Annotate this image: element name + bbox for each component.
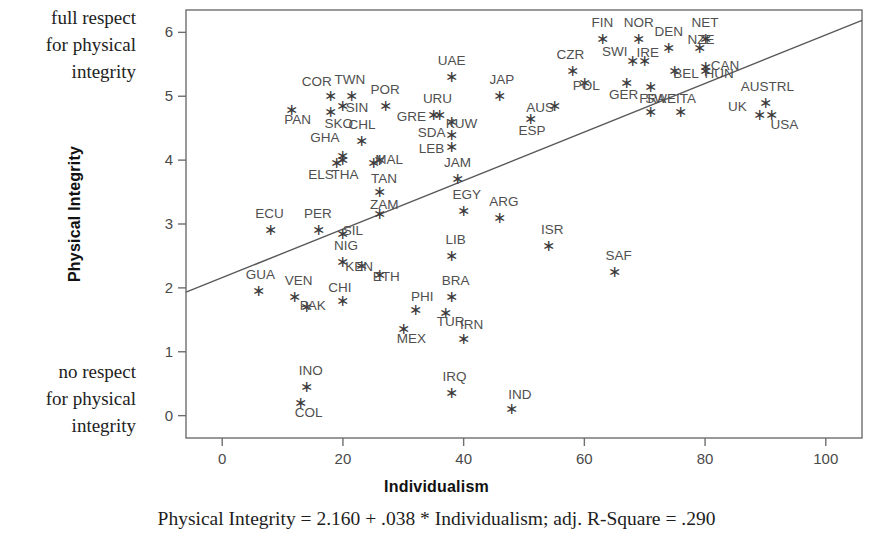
svg-text:40: 40 bbox=[455, 450, 472, 467]
data-point-label: TWN bbox=[335, 72, 366, 87]
data-point: ∗NOR bbox=[624, 15, 654, 47]
data-point: ∗POR bbox=[371, 82, 401, 114]
data-points: ∗COR∗TWN∗SIN∗PAN∗SKO∗POR∗GHA∗CHL∗GRE∗URU… bbox=[246, 15, 799, 420]
data-point-label: BEL bbox=[673, 66, 699, 81]
data-point-label: DEN bbox=[655, 24, 684, 39]
data-point-label: ECU bbox=[255, 206, 284, 221]
data-point-label: NIG bbox=[334, 238, 358, 253]
data-point-label: CHL bbox=[349, 117, 376, 132]
data-point: ∗ISR bbox=[541, 222, 564, 254]
data-point: ∗PAK bbox=[300, 298, 326, 315]
data-point: ∗GER bbox=[609, 74, 639, 102]
data-point-label: CHI bbox=[328, 280, 351, 295]
x-axis-title: Individualism bbox=[0, 478, 873, 496]
annotation-no-respect: no respectfor physicalintegrity bbox=[4, 358, 136, 439]
data-point-label: ETH bbox=[373, 269, 400, 284]
data-point-marker: ∗ bbox=[445, 68, 458, 85]
data-point-marker: ∗ bbox=[373, 205, 386, 222]
data-point-marker: ∗ bbox=[457, 330, 470, 347]
data-point-label: LEB bbox=[419, 141, 445, 156]
data-point-label: SWI bbox=[602, 44, 628, 59]
data-point-marker: ∗ bbox=[355, 132, 368, 149]
data-point-label: GUA bbox=[246, 267, 275, 282]
data-point-marker: ∗ bbox=[566, 62, 579, 79]
data-point-label: FIN bbox=[592, 15, 614, 30]
data-point: ∗IRE bbox=[636, 45, 659, 69]
data-point: ∗FIN bbox=[592, 15, 614, 47]
data-point-label: ESP bbox=[519, 123, 546, 138]
data-point: ∗USA bbox=[765, 106, 798, 132]
svg-text:80: 80 bbox=[697, 450, 714, 467]
data-point-label: PAK bbox=[300, 298, 326, 313]
data-point: ∗ARG bbox=[489, 194, 518, 226]
data-point-label: EGY bbox=[452, 187, 481, 202]
data-point-marker: ∗ bbox=[699, 58, 712, 75]
data-point: ∗SIN bbox=[336, 97, 368, 115]
data-point: ∗BRA bbox=[442, 273, 470, 305]
data-point: ∗FRA bbox=[639, 91, 666, 120]
data-point-label: IRQ bbox=[443, 369, 467, 384]
data-point-marker: ∗ bbox=[699, 30, 712, 47]
regression-caption: Physical Integrity = 2.160 + .038 * Indi… bbox=[0, 508, 873, 530]
svg-text:100: 100 bbox=[813, 450, 838, 467]
data-point-marker: ∗ bbox=[367, 154, 380, 171]
data-point-marker: ∗ bbox=[608, 263, 621, 280]
data-point: ∗POL bbox=[573, 74, 601, 93]
data-point-label: IRE bbox=[636, 45, 659, 60]
data-point-label: SIL bbox=[343, 223, 364, 238]
data-point: ∗KEN bbox=[345, 257, 373, 274]
data-point-label: BRA bbox=[442, 273, 470, 288]
data-point-label: ISR bbox=[541, 222, 564, 237]
annotation-full-respect: full respectfor physicalintegrity bbox=[4, 4, 136, 85]
data-point-marker: ∗ bbox=[457, 202, 470, 219]
data-point-label: COR bbox=[302, 74, 332, 89]
data-point: ∗ECU bbox=[255, 206, 284, 238]
data-point-marker: ∗ bbox=[445, 288, 458, 305]
data-point-label: GER bbox=[609, 87, 639, 102]
data-point: ∗JAM bbox=[444, 155, 471, 187]
data-point-label: UAE bbox=[438, 53, 466, 68]
data-point-label: AUSTRL bbox=[741, 79, 795, 94]
data-point-label: IRN bbox=[460, 317, 483, 332]
svg-text:1: 1 bbox=[165, 343, 173, 360]
data-point-marker: ∗ bbox=[662, 39, 675, 56]
data-point: ∗COL bbox=[294, 394, 323, 420]
data-point-label: THA bbox=[331, 167, 358, 182]
svg-text:20: 20 bbox=[335, 450, 352, 467]
data-point-label: URU bbox=[423, 91, 452, 106]
data-point-label: SAF bbox=[605, 248, 631, 263]
svg-text:2: 2 bbox=[165, 279, 173, 296]
data-point-marker: ∗ bbox=[493, 87, 506, 104]
data-point-label: CZR bbox=[556, 47, 584, 62]
data-point: ∗PHI bbox=[409, 289, 434, 318]
svg-text:0: 0 bbox=[218, 450, 226, 467]
data-point: ∗THA bbox=[331, 151, 358, 182]
data-point: ∗EGY bbox=[452, 187, 481, 219]
data-point-label: FRA bbox=[639, 91, 666, 106]
data-point: ∗ETH bbox=[373, 266, 400, 284]
data-point: ∗GUA bbox=[246, 267, 275, 299]
svg-text:60: 60 bbox=[576, 450, 593, 467]
svg-text:0: 0 bbox=[165, 407, 173, 424]
data-point: ∗LIB bbox=[445, 232, 466, 264]
data-point-label: GHA bbox=[310, 130, 339, 145]
data-point-label: LIB bbox=[445, 232, 465, 247]
data-point-label: COL bbox=[295, 405, 323, 420]
data-point-label: INO bbox=[299, 363, 323, 378]
data-point: ∗PER bbox=[304, 206, 332, 238]
svg-text:6: 6 bbox=[165, 23, 173, 40]
data-point-label: JAM bbox=[444, 155, 471, 170]
data-point: ∗CHI bbox=[328, 280, 351, 309]
data-point: ∗IRN bbox=[457, 317, 483, 347]
data-point-label: ARG bbox=[489, 194, 518, 209]
data-point-marker: ∗ bbox=[336, 151, 349, 168]
data-point-marker: ∗ bbox=[300, 378, 313, 395]
data-point-label: SDA bbox=[418, 125, 446, 140]
data-point-label: GRE bbox=[397, 109, 426, 124]
data-point-label: VEN bbox=[285, 273, 313, 288]
data-point: ∗BEL bbox=[668, 62, 699, 81]
data-point-marker: ∗ bbox=[312, 221, 325, 238]
data-point: ∗SAF bbox=[605, 248, 631, 280]
data-point: ∗COR bbox=[302, 74, 338, 104]
data-point: ∗CHL bbox=[349, 117, 376, 149]
